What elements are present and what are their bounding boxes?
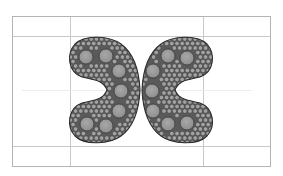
large-circle <box>146 104 160 118</box>
large-circle <box>161 49 175 63</box>
circle-packing-figure <box>0 0 283 176</box>
large-circle <box>145 84 159 98</box>
figure-frame <box>13 17 271 167</box>
large-circle <box>146 64 160 78</box>
large-circle <box>99 119 113 133</box>
large-circle <box>180 116 194 130</box>
grid-lines <box>12 16 270 166</box>
large-circle <box>180 51 194 65</box>
large-circle <box>114 84 128 98</box>
large-circle <box>161 117 175 131</box>
large-circle <box>112 104 126 118</box>
large-circle <box>99 49 113 63</box>
large-circle <box>80 117 94 131</box>
packing-diagram <box>0 0 283 176</box>
large-circle <box>79 50 93 64</box>
large-circle <box>112 64 126 78</box>
